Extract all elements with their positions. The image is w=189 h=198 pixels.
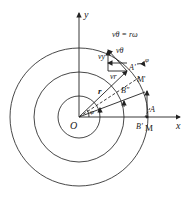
- label-B-prime: B': [136, 122, 143, 131]
- point-M: [146, 116, 149, 119]
- polar-velocity-diagram: y x vθ = rω vθ vy vr φ A' M' B'' r φ A O…: [0, 0, 189, 198]
- label-formula: vθ = rω: [112, 30, 138, 39]
- label-r: r: [98, 86, 102, 96]
- radius-r-vector: [79, 71, 127, 117]
- label-A-prime: A': [128, 63, 136, 72]
- label-v-y: vy: [98, 52, 106, 61]
- label-x-axis: x: [175, 120, 181, 131]
- label-y-axis: y: [83, 9, 89, 20]
- label-M-prime: M': [137, 75, 146, 84]
- label-v-theta: vθ: [116, 46, 124, 55]
- label-A: A: [149, 105, 155, 114]
- label-origin: O: [70, 120, 77, 131]
- label-B-double-prime: B'': [121, 86, 130, 95]
- label-v-r: vr: [110, 72, 118, 81]
- omega-rotation-arc: [137, 63, 145, 66]
- label-M: M: [145, 123, 153, 133]
- label-phi: φ: [90, 108, 94, 116]
- label-omega: φ: [145, 56, 149, 64]
